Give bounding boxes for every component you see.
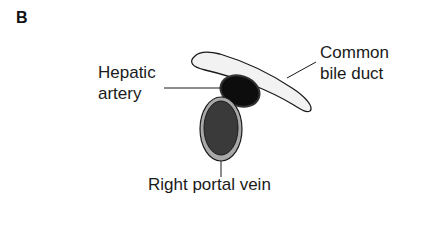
- portal-vein-lumen: [204, 101, 238, 155]
- hepatic-artery-label: Hepatic artery: [98, 62, 156, 104]
- common-bile-duct-label-line2: bile duct: [320, 63, 389, 84]
- hepatic-artery-label-line2: artery: [98, 83, 156, 104]
- common-bile-duct-label-line1: Common: [320, 42, 389, 63]
- common-bile-duct-leader: [287, 62, 316, 78]
- right-portal-vein-label: Right portal vein: [148, 174, 271, 195]
- hepatic-artery-label-line1: Hepatic: [98, 62, 156, 83]
- common-bile-duct-label: Common bile duct: [320, 42, 389, 84]
